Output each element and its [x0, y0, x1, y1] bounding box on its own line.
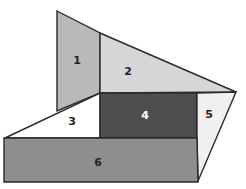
- geometric-region-diagram: 123456: [0, 0, 246, 189]
- region-label-3: 3: [68, 115, 76, 128]
- region-label-6: 6: [94, 156, 102, 169]
- region-3: [5, 93, 100, 138]
- region-label-4: 4: [141, 109, 149, 122]
- region-5: [197, 92, 236, 181]
- region-label-1: 1: [73, 54, 81, 67]
- region-label-5: 5: [205, 108, 213, 121]
- region-label-2: 2: [124, 65, 132, 78]
- region-2: [100, 33, 236, 93]
